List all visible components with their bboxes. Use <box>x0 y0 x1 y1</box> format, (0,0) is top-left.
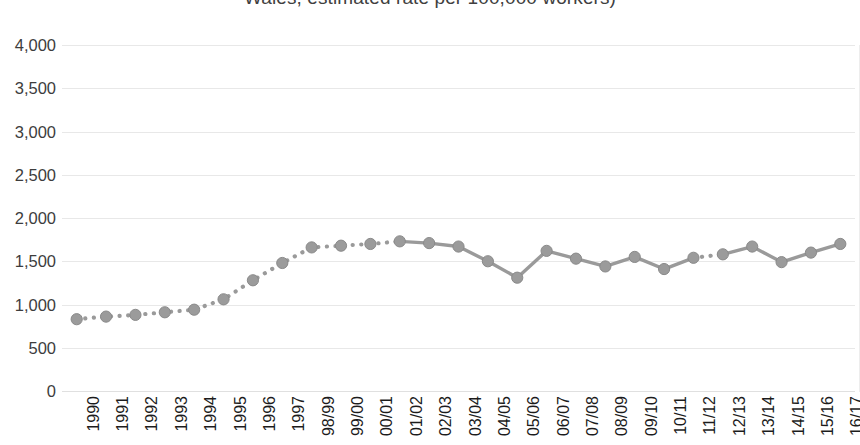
x-tick-label: 06/07 <box>553 396 571 436</box>
x-tick-label: 13/14 <box>758 396 776 436</box>
x-tick-label: 00/01 <box>376 396 394 436</box>
data-point-marker <box>629 251 640 262</box>
x-tick-label: 1990 <box>83 396 101 432</box>
x-tick-label: 99/00 <box>347 396 365 436</box>
x-tick-label: 10/11 <box>670 396 688 435</box>
data-point-marker <box>247 275 258 286</box>
x-tick-label: 1996 <box>259 396 277 432</box>
data-point-marker <box>747 241 758 252</box>
x-tick-label: 1993 <box>171 396 189 432</box>
y-tick-label: 4,000 <box>0 36 56 55</box>
x-tick-label: 1997 <box>288 396 306 432</box>
y-tick-label: 3,000 <box>0 122 56 141</box>
data-point-marker <box>600 261 611 272</box>
x-tick-label: 04/05 <box>494 396 512 436</box>
data-point-marker <box>159 307 170 318</box>
data-point-marker <box>335 240 346 251</box>
data-point-marker <box>541 245 552 256</box>
data-point-marker <box>805 247 816 258</box>
series-line-chart <box>62 45 855 391</box>
data-point-marker <box>424 237 435 248</box>
x-tick-label: 02/03 <box>435 396 453 436</box>
x-tick-label: 16/17 <box>846 396 860 436</box>
y-tick-label: 2,500 <box>0 165 56 184</box>
data-point-marker <box>218 294 229 305</box>
data-point-marker <box>453 241 464 252</box>
data-point-marker <box>277 257 288 268</box>
x-tick-label: 05/06 <box>523 396 541 436</box>
x-tick-label: 01/02 <box>406 396 424 436</box>
gridline-0 <box>62 391 855 392</box>
y-tick-label: 0 <box>0 382 56 401</box>
data-point-marker <box>512 272 523 283</box>
data-point-marker <box>394 236 405 247</box>
x-tick-label: 12/13 <box>729 396 747 436</box>
data-point-marker <box>835 238 846 249</box>
y-tick-label: 1,500 <box>0 252 56 271</box>
data-point-marker <box>365 238 376 249</box>
x-tick-label: 11/12 <box>699 396 717 435</box>
x-tick-label: 1991 <box>112 396 130 432</box>
data-point-marker <box>658 263 669 274</box>
x-tick-label: 1995 <box>230 396 248 432</box>
data-point-marker <box>776 257 787 268</box>
y-axis: 4,0003,5003,0002,5002,0001,5001,0005000 <box>0 0 56 445</box>
x-tick-label: 1992 <box>141 396 159 432</box>
data-point-marker <box>306 242 317 253</box>
x-tick-label: 98/99 <box>318 396 336 436</box>
x-tick-label: 03/04 <box>465 396 483 436</box>
data-point-marker <box>482 256 493 267</box>
data-point-marker <box>717 249 728 260</box>
y-tick-label: 2,000 <box>0 209 56 228</box>
data-point-marker <box>688 252 699 263</box>
data-point-marker <box>100 311 111 322</box>
series-segment-dotted <box>77 241 400 319</box>
x-tick-label: 08/09 <box>611 396 629 436</box>
data-point-marker <box>71 314 82 325</box>
x-tick-label: 1994 <box>200 396 218 432</box>
data-point-marker <box>189 304 200 315</box>
chart-title: Wales, estimated rate per 100,000 worker… <box>0 0 860 10</box>
data-point-marker <box>130 309 141 320</box>
y-tick-label: 500 <box>0 338 56 357</box>
x-axis: 1990199119921993199419951996199798/9999/… <box>62 396 855 445</box>
plot-area <box>62 45 855 391</box>
chart-container: Wales, estimated rate per 100,000 worker… <box>0 0 860 445</box>
data-point-marker <box>570 253 581 264</box>
y-tick-label: 1,000 <box>0 295 56 314</box>
x-tick-label: 09/10 <box>641 396 659 436</box>
x-tick-label: 15/16 <box>817 396 835 436</box>
x-tick-label: 14/15 <box>788 396 806 436</box>
x-tick-label: 07/08 <box>582 396 600 436</box>
y-tick-label: 3,500 <box>0 79 56 98</box>
